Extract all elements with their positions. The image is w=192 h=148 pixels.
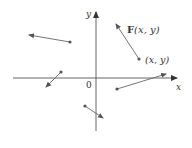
origin-label: 0 [86,80,92,90]
vector-3 [83,104,103,118]
y-axis-label: y [85,9,92,19]
base-point [115,87,118,90]
base-point [137,57,140,60]
vector-field-diagram: x y 0 F(x, y) (x, y) [0,0,192,148]
vector-4 [115,74,166,91]
base-point [83,104,86,107]
field-label: F(x, y) [127,24,160,35]
vector-1 [29,35,72,44]
base-point [68,40,71,43]
x-axis-label: x [176,82,181,92]
point-label: (x, y) [145,54,169,65]
vector-2 [46,70,63,87]
base-point [59,70,62,73]
